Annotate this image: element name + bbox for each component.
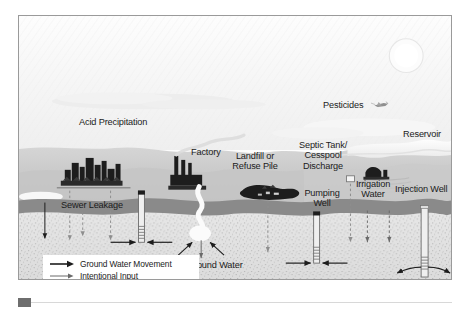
- caption-marker: [18, 298, 31, 307]
- diagram-frame: Acid Precipitation Pesticides Reservoir …: [18, 15, 452, 280]
- legend-label-intentional-input: Intentional Input: [80, 271, 138, 280]
- pumping-well-center: [313, 212, 320, 264]
- label-acid-precipitation: Acid Precipitation: [79, 117, 147, 127]
- label-sewer-leakage: Sewer Leakage: [61, 200, 123, 210]
- stream-recharge-pool: [189, 225, 211, 241]
- label-landfill-refuse-pile: Landfill or Refuse Pile: [219, 151, 291, 172]
- legend-label-ground-water-movement: Ground Water Movement: [80, 259, 172, 269]
- injection-well: [421, 206, 429, 277]
- label-pesticides: Pesticides: [323, 100, 363, 110]
- sun-icon: [389, 39, 423, 73]
- pumping-well-left: [138, 191, 145, 243]
- label-injection-well: Injection Well: [395, 184, 447, 194]
- label-factory: Factory: [191, 147, 221, 157]
- legend: Ground Water Movement Intentional Input …: [43, 255, 199, 280]
- caption-rule: [31, 302, 452, 303]
- legend-item-ground-water-movement: Ground Water Movement: [49, 258, 172, 270]
- solid-arrow-right-icon: [49, 259, 75, 269]
- label-reservoir: Reservoir: [403, 129, 441, 139]
- groundwater-cross-section: [19, 16, 451, 279]
- solid-arrow-right-icon: [49, 271, 75, 280]
- figure-stage: Acid Precipitation Pesticides Reservoir …: [0, 0, 470, 312]
- label-septic-tank-cesspool-discharge: Septic Tank/ Cesspool Discharge: [287, 140, 359, 171]
- legend-item-intentional-input: Intentional Input: [49, 270, 138, 280]
